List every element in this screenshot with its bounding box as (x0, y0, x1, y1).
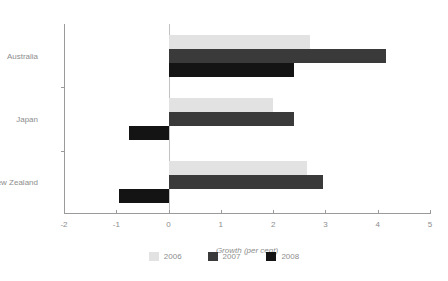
x-tick-mark (169, 210, 170, 214)
bar (129, 126, 168, 140)
legend-label: 2007 (223, 252, 241, 261)
bar (119, 189, 169, 203)
x-tick-mark (378, 210, 379, 214)
bar (169, 175, 323, 189)
legend-item[interactable]: 2008 (266, 252, 299, 261)
x-tick-mark (116, 210, 117, 214)
bar-chart: AustraliaJapanNew Zealand -2-1012345 Gro… (0, 0, 448, 281)
bar (169, 112, 294, 126)
bar (169, 98, 274, 112)
legend-swatch-icon (266, 252, 276, 261)
legend-swatch-icon (149, 252, 159, 261)
x-axis-line (64, 213, 430, 214)
legend-label: 2006 (164, 252, 182, 261)
x-tick-label: 4 (363, 220, 393, 229)
x-tick-label: -2 (49, 220, 79, 229)
bar (169, 161, 308, 175)
y-axis-line (64, 24, 65, 214)
legend-item[interactable]: 2007 (208, 252, 241, 261)
category-label: New Zealand (0, 178, 38, 187)
category-tick-mark (61, 87, 65, 88)
x-tick-mark (325, 210, 326, 214)
x-tick-label: 2 (258, 220, 288, 229)
x-tick-label: 3 (310, 220, 340, 229)
legend-swatch-icon (208, 252, 218, 261)
bar (169, 35, 310, 49)
legend-item[interactable]: 2006 (149, 252, 182, 261)
x-tick-label: 1 (206, 220, 236, 229)
bar (169, 63, 294, 77)
x-tick-mark (430, 210, 431, 214)
x-tick-label: 5 (415, 220, 445, 229)
chart-legend: 200620072008 (0, 252, 448, 261)
x-tick-mark (221, 210, 222, 214)
x-tick-label: 0 (154, 220, 184, 229)
x-tick-mark (273, 210, 274, 214)
legend-label: 2008 (281, 252, 299, 261)
category-label: Australia (7, 51, 38, 60)
bar (169, 49, 386, 63)
category-label: Japan (16, 115, 38, 124)
plot-area: AustraliaJapanNew Zealand -2-1012345 Gro… (64, 24, 430, 214)
x-tick-label: -1 (101, 220, 131, 229)
x-tick-mark (64, 210, 65, 214)
category-tick-mark (61, 151, 65, 152)
